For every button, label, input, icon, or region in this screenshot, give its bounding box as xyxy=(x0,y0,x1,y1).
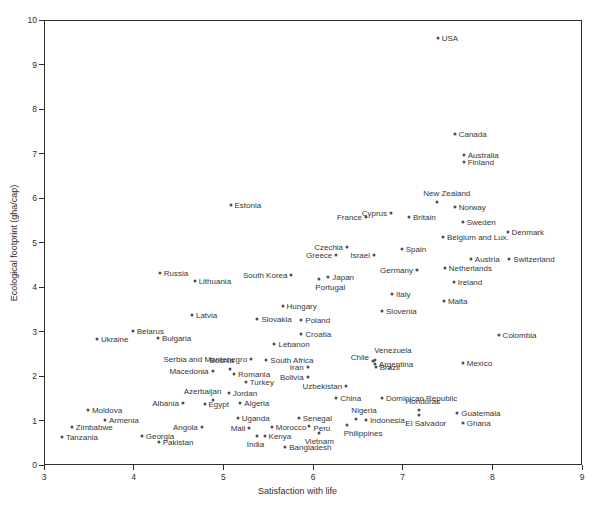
point-mexico xyxy=(461,361,464,364)
label-morocco: Morocco xyxy=(276,423,307,432)
point-finland xyxy=(462,161,465,164)
label-spain: Spain xyxy=(406,245,426,254)
point-germany xyxy=(416,269,419,272)
point-ireland xyxy=(452,280,455,283)
x-tick xyxy=(313,465,314,470)
point-serbia-and-montenegro xyxy=(250,357,253,360)
label-estonia: Estonia xyxy=(235,201,262,210)
label-mali: Mali xyxy=(231,424,246,433)
label-angola: Angola xyxy=(173,423,198,432)
point-cyprus xyxy=(390,212,393,215)
point-malta xyxy=(442,299,445,302)
label-netherlands: Netherlands xyxy=(449,264,492,273)
y-tick xyxy=(39,420,44,421)
label-russia: Russia xyxy=(164,269,188,278)
label-new-zealand: New Zealand xyxy=(423,189,470,198)
point-egypt xyxy=(203,403,206,406)
point-portugal xyxy=(318,277,321,280)
point-austria xyxy=(469,258,472,261)
point-nigeria xyxy=(355,418,358,421)
x-tick xyxy=(44,465,45,470)
point-switzerland xyxy=(508,258,511,261)
x-tick-label: 5 xyxy=(208,472,238,482)
point-china xyxy=(335,396,338,399)
label-croatia: Croatia xyxy=(305,330,331,339)
point-dominican-republic xyxy=(381,396,384,399)
label-algeria: Algeria xyxy=(244,398,269,407)
point-iran xyxy=(306,366,309,369)
point-czechia xyxy=(346,246,349,249)
plot-area xyxy=(44,20,582,465)
point-zimbabwe xyxy=(70,426,73,429)
y-tick-label: 1 xyxy=(3,416,37,426)
label-bulgaria: Bulgaria xyxy=(162,334,191,343)
point-morocco xyxy=(270,426,273,429)
y-tick xyxy=(39,64,44,65)
point-bosnia xyxy=(228,368,231,371)
point-colombia xyxy=(497,334,500,337)
y-tick-label: 9 xyxy=(3,60,37,70)
label-philippines: Philippines xyxy=(344,429,383,438)
point-kenya xyxy=(263,435,266,438)
point-tanzania xyxy=(60,435,63,438)
label-japan: Japan xyxy=(332,272,354,281)
point-ukraine xyxy=(95,338,98,341)
point-usa xyxy=(436,36,439,39)
label-nigeria: Nigeria xyxy=(351,406,376,415)
point-italy xyxy=(390,293,393,296)
point-latvia xyxy=(190,314,193,317)
point-russia xyxy=(158,272,161,275)
label-bosnia: Bosnia xyxy=(209,356,233,365)
label-moldova: Moldova xyxy=(92,405,122,414)
label-india: India xyxy=(247,440,264,449)
point-netherlands xyxy=(443,267,446,270)
y-tick xyxy=(39,153,44,154)
point-honduras xyxy=(417,408,420,411)
y-tick-label: 6 xyxy=(3,193,37,203)
point-greece xyxy=(335,253,338,256)
point-peru xyxy=(308,424,311,427)
y-tick-label: 7 xyxy=(3,149,37,159)
point-brazil xyxy=(374,366,377,369)
point-croatia xyxy=(300,333,303,336)
label-macedonia: Macedonia xyxy=(169,367,208,376)
label-egypt: Egypt xyxy=(209,400,229,409)
label-finland: Finland xyxy=(468,158,494,167)
label-lebanon: Lebanon xyxy=(278,339,309,348)
point-canada xyxy=(453,133,456,136)
point-philippines xyxy=(346,423,349,426)
x-tick xyxy=(223,465,224,470)
label-serbia-and-montenegro: Serbia and Montenegro xyxy=(164,354,248,363)
label-mexico: Mexico xyxy=(467,358,492,367)
label-norway: Norway xyxy=(459,203,486,212)
label-greece: Greece xyxy=(306,250,332,259)
label-austria: Austria xyxy=(475,255,500,264)
point-turkey xyxy=(244,380,247,383)
x-axis-label: Satisfaction with life xyxy=(0,486,595,496)
label-iran: Iran xyxy=(290,363,304,372)
point-argentina xyxy=(373,362,376,365)
label-malta: Malta xyxy=(448,296,468,305)
label-slovenia: Slovenia xyxy=(386,307,417,316)
label-albania: Albania xyxy=(152,399,179,408)
point-armenia xyxy=(103,419,106,422)
point-macedonia xyxy=(211,370,214,373)
label-britain: Britain xyxy=(413,213,436,222)
label-canada: Canada xyxy=(459,130,487,139)
point-angola xyxy=(200,426,203,429)
label-denmark: Denmark xyxy=(512,227,544,236)
label-uganda: Uganda xyxy=(242,414,270,423)
label-china: China xyxy=(340,393,361,402)
label-france: France xyxy=(337,213,362,222)
point-poland xyxy=(300,318,303,321)
label-chile: Chile xyxy=(351,352,369,361)
point-moldova xyxy=(86,408,89,411)
label-lithuania: Lithuania xyxy=(199,277,231,286)
label-ghana: Ghana xyxy=(467,418,491,427)
point-jordan xyxy=(227,391,230,394)
point-slovenia xyxy=(381,310,384,313)
scatter-chart: Satisfaction with life Ecological footpr… xyxy=(0,0,595,510)
point-france xyxy=(364,216,367,219)
y-tick xyxy=(39,109,44,110)
x-tick-label: 8 xyxy=(477,472,507,482)
